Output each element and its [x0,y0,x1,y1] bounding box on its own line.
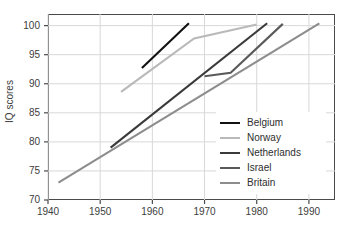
legend-item-netherlands[interactable]: Netherlands [220,145,322,160]
x-tick-label: 1990 [289,207,329,217]
legend-swatch-icon [220,137,240,139]
legend-swatch-icon [220,182,240,184]
y-tick-label: 95 [10,50,40,60]
legend-label: Norway [247,133,281,143]
x-tick-label: 1980 [237,207,277,217]
legend-swatch-icon [220,122,240,124]
legend-item-britain[interactable]: Britain [220,175,322,190]
legend-label: Britain [247,178,275,188]
legend-item-norway[interactable]: Norway [220,130,322,145]
y-tick-label: 75 [10,166,40,176]
x-tick-label: 1940 [28,207,68,217]
legend-label: Israel [247,163,271,173]
y-axis-title: IQ scores [4,72,15,132]
y-tick-label: 80 [10,137,40,147]
series-line-belgium [142,23,189,68]
series-line-norway [121,24,257,91]
iq-scores-line-chart: 707580859095100 194019501960197019801990… [0,0,344,230]
legend-label: Belgium [247,118,283,128]
y-tick-label: 85 [10,108,40,118]
legend-item-israel[interactable]: Israel [220,160,322,175]
legend-label: Netherlands [247,148,301,158]
legend: BelgiumNorwayNetherlandsIsraelBritain [216,112,326,194]
y-tick-label: 100 [10,21,40,31]
legend-swatch-icon [220,152,240,154]
x-tick-label: 1970 [185,207,225,217]
x-tick-label: 1950 [80,207,120,217]
legend-item-belgium[interactable]: Belgium [220,115,322,130]
legend-swatch-icon [220,167,240,169]
y-tick-label: 70 [10,195,40,205]
x-tick-label: 1960 [132,207,172,217]
y-tick-label: 90 [10,79,40,89]
